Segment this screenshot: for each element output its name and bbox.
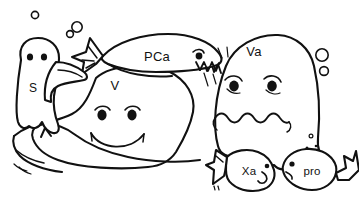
prothrombin-tail xyxy=(336,151,359,180)
speck-1 xyxy=(309,134,313,138)
speck-2 xyxy=(306,147,309,150)
bubble-4 xyxy=(316,49,328,61)
factor-xa-tail xyxy=(206,150,227,184)
bubble-3 xyxy=(72,22,82,32)
protein-s-right-eye xyxy=(41,53,47,60)
speck-3 xyxy=(315,145,318,148)
protein-ca-tail-line-2 xyxy=(82,60,94,61)
factor-xa-speck-line-1 xyxy=(214,186,215,190)
character-protein-ca: PCa xyxy=(72,34,221,77)
bubble-1 xyxy=(31,11,38,18)
factor-v-mouth-tick-right xyxy=(143,134,144,142)
bubble-2 xyxy=(67,31,74,38)
character-factor-xa: Xa xyxy=(206,150,275,191)
prothrombin-label: pro xyxy=(303,165,320,177)
protein-s-left-eye xyxy=(27,53,33,60)
illustration-canvas: V Va xyxy=(0,0,359,205)
protein-ca-label: PCa xyxy=(144,49,170,64)
factor-xa-label: Xa xyxy=(242,165,257,177)
factor-v-mouth-tick-left xyxy=(91,133,92,141)
factor-va-torn-line-1 xyxy=(204,73,208,86)
prothrombin-eye xyxy=(289,161,294,166)
factor-xa-eye xyxy=(265,164,270,169)
character-prothrombin: pro xyxy=(283,149,359,190)
factor-xa-speck-line-2 xyxy=(218,186,219,190)
protein-s-arm xyxy=(45,62,87,102)
factor-va-torn-line-2 xyxy=(213,74,216,84)
factor-v-label: V xyxy=(111,78,120,93)
protein-s-label: S xyxy=(29,81,37,95)
cartoon-drawing: V Va xyxy=(0,0,359,205)
factor-v-hatch-2 xyxy=(14,164,27,171)
bubble-5 xyxy=(320,67,329,76)
factor-va-label: Va xyxy=(246,44,262,59)
factor-va-hair-wisp-2 xyxy=(227,47,228,57)
